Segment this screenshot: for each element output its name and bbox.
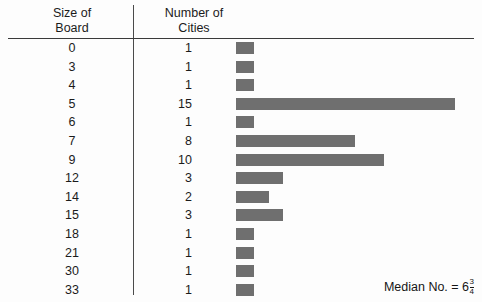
bar: [236, 265, 254, 277]
header-rule: [8, 38, 474, 39]
cell-size-of-board: 7: [18, 134, 126, 148]
bar: [236, 228, 254, 240]
bar: [236, 172, 283, 184]
cell-number-of-cities: 1: [140, 78, 192, 92]
bar-container: [236, 209, 283, 221]
bar: [236, 79, 254, 91]
cell-number-of-cities: 3: [140, 171, 192, 185]
bar: [236, 191, 269, 203]
table-row: 31: [0, 60, 482, 79]
cell-size-of-board: 30: [18, 264, 126, 278]
bar-container: [236, 265, 254, 277]
cell-number-of-cities: 8: [140, 134, 192, 148]
cell-number-of-cities: 1: [140, 264, 192, 278]
bar: [236, 98, 455, 110]
cell-number-of-cities: 15: [140, 97, 192, 111]
fraction-denominator: 4: [470, 287, 474, 297]
cell-size-of-board: 33: [18, 283, 126, 297]
bar-container: [236, 228, 254, 240]
bar: [236, 135, 355, 147]
table-row: 181: [0, 227, 482, 246]
cell-size-of-board: 5: [18, 97, 126, 111]
cell-size-of-board: 12: [18, 171, 126, 185]
cell-size-of-board: 21: [18, 246, 126, 260]
bar-container: [236, 61, 254, 73]
bar-container: [236, 79, 254, 91]
cell-size-of-board: 18: [18, 227, 126, 241]
table-row: 41: [0, 78, 482, 97]
table-row: 01: [0, 41, 482, 60]
bar: [236, 61, 254, 73]
bar: [236, 284, 254, 296]
table-row: 78: [0, 134, 482, 153]
bar: [236, 247, 254, 259]
cell-number-of-cities: 1: [140, 41, 192, 55]
table-row: 123: [0, 171, 482, 190]
median-label: Median No. = 6: [384, 280, 469, 294]
column-header-size-of-board: Size of Board: [18, 6, 126, 36]
bar-container: [236, 135, 355, 147]
cell-number-of-cities: 1: [140, 246, 192, 260]
cell-number-of-cities: 1: [140, 227, 192, 241]
bar-container: [236, 247, 254, 259]
cell-size-of-board: 14: [18, 190, 126, 204]
frequency-table-chart: Size of Board Number of Cities 013141515…: [0, 0, 482, 302]
table-row: 515: [0, 97, 482, 116]
bar: [236, 209, 283, 221]
cell-size-of-board: 15: [18, 208, 126, 222]
table-row: 142: [0, 190, 482, 209]
table-row: 61: [0, 115, 482, 134]
table-row: 910: [0, 153, 482, 172]
cell-size-of-board: 9: [18, 153, 126, 167]
bar: [236, 116, 254, 128]
cell-number-of-cities: 1: [140, 283, 192, 297]
bar-container: [236, 191, 269, 203]
bar-container: [236, 284, 254, 296]
cell-number-of-cities: 3: [140, 208, 192, 222]
bar-container: [236, 172, 283, 184]
bar-container: [236, 42, 254, 54]
bar: [236, 42, 254, 54]
cell-size-of-board: 4: [18, 78, 126, 92]
column-header-number-of-cities: Number of Cities: [140, 6, 248, 36]
cell-size-of-board: 0: [18, 41, 126, 55]
cell-number-of-cities: 1: [140, 115, 192, 129]
bar-container: [236, 98, 455, 110]
bar-container: [236, 116, 254, 128]
median-fraction: 34: [470, 278, 474, 296]
table-row: 211: [0, 246, 482, 265]
fraction-numerator: 3: [470, 278, 474, 287]
cell-size-of-board: 3: [18, 60, 126, 74]
table-row: 153: [0, 208, 482, 227]
median-annotation: Median No. = 634: [384, 278, 474, 296]
table-body: 0131415156178910123142153181211301331461: [0, 41, 482, 302]
cell-size-of-board: 6: [18, 115, 126, 129]
cell-number-of-cities: 1: [140, 60, 192, 74]
bar-container: [236, 154, 384, 166]
cell-number-of-cities: 2: [140, 190, 192, 204]
bar: [236, 154, 384, 166]
cell-number-of-cities: 10: [140, 153, 192, 167]
